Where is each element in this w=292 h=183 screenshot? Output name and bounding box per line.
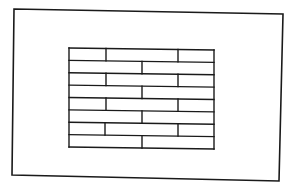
brick-grid bbox=[69, 48, 214, 149]
grid-top-edge bbox=[69, 48, 214, 50]
brick-pattern-drawing bbox=[0, 0, 292, 183]
outer-frame bbox=[12, 9, 283, 181]
diagram-canvas: Line drawing of a rectangular frame encl… bbox=[0, 0, 292, 183]
